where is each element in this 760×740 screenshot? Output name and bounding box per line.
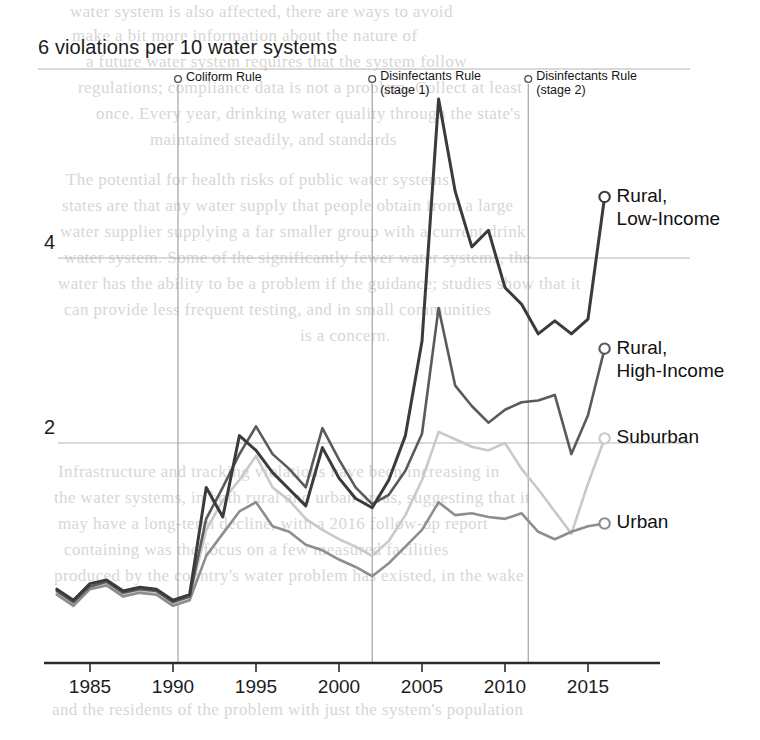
annotation-label-disinfectants-rule-stage-1: Disinfectants Rule (stage 1) <box>380 70 481 97</box>
annotation-label-coliform-rule: Coliform Rule <box>186 71 262 85</box>
annotation-label-disinfectants-rule-stage-2: Disinfectants Rule (stage 2) <box>536 70 637 97</box>
series-line-rural-low-income <box>57 99 605 600</box>
rule-marker-coliform-rule <box>175 76 182 83</box>
series-label-rural-high-income: Rural, High-Income <box>617 336 725 382</box>
series-label-suburban: Suburban <box>617 425 699 448</box>
series-line-suburban <box>57 432 605 604</box>
x-tick-label-1985: 1985 <box>69 676 111 698</box>
series-line-rural-high-income <box>57 308 605 602</box>
series-endpoint-rural-low-income <box>599 192 609 202</box>
chart-page: water system is also affected, there are… <box>0 0 760 740</box>
series-label-urban: Urban <box>617 510 669 533</box>
series-endpoint-suburban <box>599 433 609 443</box>
y-tick-label-4: 4 <box>44 231 55 254</box>
x-tick-label-2005: 2005 <box>401 676 443 698</box>
x-tick-label-1990: 1990 <box>152 676 194 698</box>
x-tick-label-1995: 1995 <box>235 676 277 698</box>
y-tick-label-2: 2 <box>44 416 55 439</box>
rule-marker-disinfectants-rule-stage-1 <box>369 76 376 83</box>
series-label-rural-low-income: Rural, Low-Income <box>617 184 721 230</box>
rule-marker-disinfectants-rule-stage-2 <box>525 76 532 83</box>
x-tick-label-2010: 2010 <box>484 676 526 698</box>
series-endpoint-urban <box>599 518 609 528</box>
series-endpoint-rural-high-income <box>599 343 609 353</box>
x-tick-label-2000: 2000 <box>318 676 360 698</box>
x-tick-label-2015: 2015 <box>567 676 609 698</box>
